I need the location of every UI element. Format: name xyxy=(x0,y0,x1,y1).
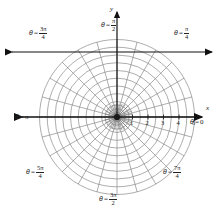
fraction: 7π 4 xyxy=(173,165,182,180)
fraction: 5π 4 xyxy=(36,165,45,180)
angle-label-five-pi-over-4: θ= 5π 4 xyxy=(26,165,44,180)
y-axis-label: y xyxy=(110,5,113,13)
fraction-denominator: 2 xyxy=(111,200,116,207)
polar-grid-figure: y x 1 2 3 4 5 θ=0 θ= π 4 θ= π 2 θ= 3π 4 … xyxy=(0,0,224,219)
angle-label-pi: θ=π xyxy=(15,114,28,121)
fraction-denominator: 4 xyxy=(175,173,180,180)
origin-point xyxy=(114,114,120,120)
fraction-numerator: 7π xyxy=(173,165,182,172)
fraction-denominator: 4 xyxy=(184,34,189,41)
x-axis-label: x xyxy=(206,104,209,112)
fraction-denominator: 4 xyxy=(41,34,46,41)
angle-label-pi-over-4: θ= π 4 xyxy=(174,26,189,41)
angle-value: 0 xyxy=(200,118,204,126)
angle-label-pi-over-2: θ= π 2 xyxy=(101,18,116,33)
fraction: 3π 2 xyxy=(109,192,118,207)
fraction: 3π 4 xyxy=(39,26,48,41)
fraction-denominator: 2 xyxy=(111,26,116,33)
fraction-numerator: π xyxy=(111,18,116,25)
fraction-numerator: π xyxy=(184,26,189,33)
x-tick-4: 4 xyxy=(177,119,180,126)
angle-label-seven-pi-over-4: θ= 7π 4 xyxy=(163,165,181,180)
fraction: π 2 xyxy=(111,18,116,33)
fraction-numerator: 5π xyxy=(36,165,45,172)
angle-label-three-pi-over-2: θ= 3π 2 xyxy=(99,192,117,207)
angle-label-three-pi-over-4: θ= 3π 4 xyxy=(29,26,47,41)
fraction-numerator: 3π xyxy=(109,192,118,199)
angle-label-theta-0: θ=0 xyxy=(190,119,203,126)
x-tick-1: 1 xyxy=(130,119,133,126)
x-tick-3: 3 xyxy=(161,119,164,126)
fraction-numerator: 3π xyxy=(39,26,48,33)
fraction-denominator: 4 xyxy=(38,173,43,180)
x-tick-2: 2 xyxy=(146,119,149,126)
fraction: π 4 xyxy=(184,26,189,41)
angle-value: π xyxy=(25,113,29,121)
